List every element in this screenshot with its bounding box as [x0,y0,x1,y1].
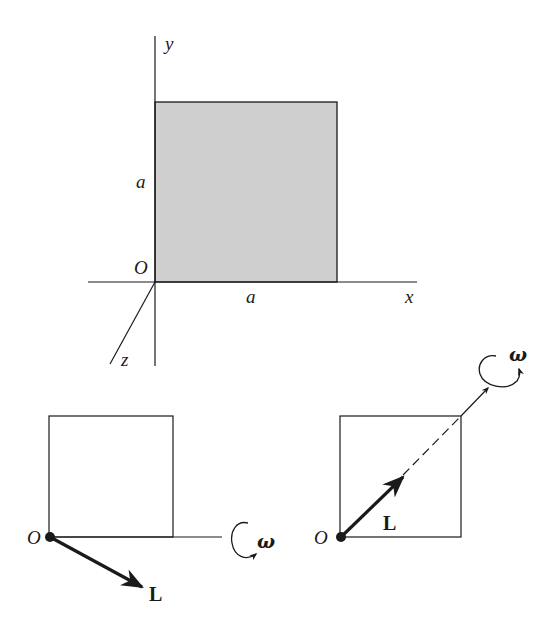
side-length-label-vertical: a [136,171,146,192]
origin-pivot-dot [45,532,55,542]
origin-label: O [314,527,328,548]
rotation-axis-extension-arrow [461,388,488,416]
shaded-square-plate [155,102,337,282]
bottom-left-figure: O L ω [27,416,275,605]
z-axis-label: z [120,349,129,370]
diagram-canvas: y x z O a a O L ω O L ω [0,0,558,628]
top-figure: y x z O a a [88,33,417,370]
angular-velocity-label: ω [509,343,527,365]
y-axis-label: y [163,33,174,54]
angular-momentum-label: L [383,512,396,534]
angular-velocity-label: ω [257,530,275,552]
angular-momentum-arrow [50,537,142,587]
origin-label: O [27,527,41,548]
origin-label: O [134,257,148,278]
bottom-right-figure: O L ω [314,343,527,548]
square-plate-outline [49,416,173,537]
z-axis [110,282,155,364]
rotation-curl-icon [232,523,256,558]
angular-momentum-label: L [149,583,162,605]
x-axis-label: x [404,286,414,307]
rotation-axis-dashed [403,416,461,475]
origin-pivot-dot [336,532,346,542]
side-length-label-horizontal: a [246,286,256,307]
